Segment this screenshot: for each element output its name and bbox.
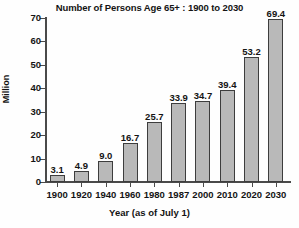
- y-axis-label: Million: [1, 59, 11, 119]
- bar-value-label: 53.2: [242, 46, 261, 57]
- x-tick-mark: [227, 183, 228, 187]
- y-tick-label: 0: [36, 176, 41, 187]
- bar-chart-figure: Number of Persons Age 65+ : 1900 to 2030…: [0, 0, 299, 228]
- x-tick-label: 1987: [168, 189, 189, 200]
- bar-value-label: 3.1: [51, 164, 64, 175]
- bar-value-label: 34.7: [194, 90, 213, 101]
- bar: 39.4: [220, 90, 235, 182]
- bar-value-label: 25.7: [145, 111, 164, 122]
- bar-value-label: 4.9: [75, 160, 88, 171]
- x-tick-label: 1980: [144, 189, 165, 200]
- x-tick-mark: [276, 183, 277, 187]
- bar: 69.4: [268, 19, 283, 182]
- x-tick-label: 1960: [119, 189, 140, 200]
- bar-value-label: 39.4: [218, 79, 237, 90]
- bar: 34.7: [195, 101, 210, 182]
- x-tick-label: 1900: [47, 189, 68, 200]
- x-tick-mark: [179, 183, 180, 187]
- bar-value-label: 9.0: [99, 150, 112, 161]
- x-tick-label: 1920: [71, 189, 92, 200]
- y-tick-label: 10: [30, 153, 41, 164]
- plot-area: 010203040506070 3.14.99.016.725.733.934.…: [45, 18, 288, 182]
- y-tick-label: 70: [30, 12, 41, 23]
- y-tick-label: 60: [30, 35, 41, 46]
- y-tick-label: 40: [30, 82, 41, 93]
- y-tick-label: 30: [30, 106, 41, 117]
- x-axis-label: Year (as of July 1): [0, 207, 299, 218]
- x-tick-label: 2000: [192, 189, 213, 200]
- bar: 25.7: [147, 122, 162, 182]
- bar-value-label: 16.7: [121, 132, 140, 143]
- bar: 3.1: [50, 175, 65, 182]
- bar: 9.0: [98, 161, 113, 182]
- x-tick-mark: [106, 183, 107, 187]
- bar: 53.2: [244, 57, 259, 182]
- x-tick-label: 1940: [95, 189, 116, 200]
- bar-value-label: 33.9: [169, 92, 188, 103]
- x-tick-label: 2010: [217, 189, 238, 200]
- x-tick-mark: [81, 183, 82, 187]
- x-tick-mark: [57, 183, 58, 187]
- bar: 33.9: [171, 103, 186, 182]
- x-tick-label: 2020: [241, 189, 262, 200]
- y-tick-label: 50: [30, 59, 41, 70]
- bar-value-label: 69.4: [267, 8, 286, 19]
- x-tick-mark: [252, 183, 253, 187]
- x-tick-mark: [154, 183, 155, 187]
- x-tick-label: 2030: [265, 189, 286, 200]
- y-tick-label: 20: [30, 129, 41, 140]
- bar: 4.9: [74, 171, 89, 182]
- x-tick-mark: [130, 183, 131, 187]
- chart-title: Number of Persons Age 65+ : 1900 to 2030: [0, 2, 299, 13]
- bar: 16.7: [123, 143, 138, 182]
- x-tick-mark: [203, 183, 204, 187]
